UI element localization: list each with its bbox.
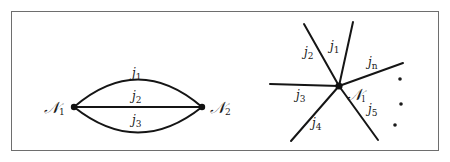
network-diagram: j1 j2 j3 𝒩1 𝒩2 j1 j2 j3 j4 j5 jn 𝒩l [0, 0, 450, 162]
node-nl [335, 82, 342, 89]
figure-frame [12, 12, 439, 151]
edge-label-j1: j1 [327, 39, 339, 55]
edge-j1 [339, 22, 353, 86]
edge-label-j5: j5 [365, 102, 378, 118]
ellipsis-dot [399, 102, 403, 106]
right-panel: j1 j2 j3 j4 j5 jn 𝒩l [270, 22, 403, 141]
node-label-nl: 𝒩l [347, 85, 367, 104]
node-label-n1: 𝒩1 [44, 98, 65, 117]
edge-label-j3: j3 [293, 88, 306, 104]
node-label-n2: 𝒩2 [210, 98, 231, 117]
edge-label-jn: jn [365, 55, 378, 71]
edge-label-j2: j2 [129, 89, 141, 105]
edge-j3 [270, 84, 339, 86]
ellipsis-dot [398, 77, 402, 81]
node-n1 [71, 104, 77, 110]
edge-label-j3: j3 [129, 113, 142, 129]
left-panel: j1 j2 j3 𝒩1 𝒩2 [44, 66, 231, 133]
node-n2 [199, 104, 205, 110]
ellipsis-dot [393, 123, 397, 127]
edge-label-j2: j2 [301, 45, 313, 61]
